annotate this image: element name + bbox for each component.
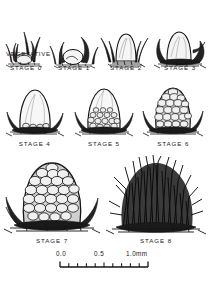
stage-5-label: STAGE 5 <box>88 140 120 148</box>
stage-row-2: STAGE 4 <box>0 74 208 148</box>
stage-1-label: STAGE 1 <box>58 64 90 72</box>
scale-label-0: 0.0 <box>56 250 66 257</box>
stage-cell-2: STAGE 2 <box>100 2 152 72</box>
scale-label-5: 0.5 <box>94 250 104 257</box>
stage-cell-6: STAGE 6 <box>139 74 208 148</box>
stage-cell-5: STAGE 5 <box>69 74 138 148</box>
plant-development-figure: STAGE 0 <box>0 0 208 281</box>
stage-8-label: STAGE 8 <box>140 237 172 245</box>
stage-cell-0: STAGE 0 <box>0 2 48 72</box>
stage-6-illustration <box>140 80 206 140</box>
scale-bar: 0.0 0.5 1.0mm <box>0 250 208 271</box>
stage-5-illustration <box>71 80 137 140</box>
vegetative-label: VEGETATIVE <box>6 50 51 57</box>
stage-cell-1: STAGE 1 <box>48 2 100 72</box>
stage-4-illustration <box>2 80 68 140</box>
scale-label-10: 1.0mm <box>126 250 148 257</box>
stage-3-label: STAGE 3 <box>164 64 196 72</box>
stage-cell-4: STAGE 4 <box>0 74 69 148</box>
stage-8-illustration <box>106 155 206 237</box>
ruler-graphic <box>56 260 152 271</box>
stage-cell-7: STAGE 7 <box>0 150 104 245</box>
stage-2-label: STAGE 2 <box>110 64 142 72</box>
stage-row-3: STAGE 7 <box>0 150 208 245</box>
stage-0-label: STAGE 0 <box>10 64 42 72</box>
stage-row-1: STAGE 0 <box>0 2 208 72</box>
stage-cell-3: STAGE 3 <box>152 2 208 72</box>
stage-6-label: STAGE 6 <box>157 140 189 148</box>
stage-7-label: STAGE 7 <box>36 237 68 245</box>
scale-tick-labels: 0.0 0.5 1.0mm <box>54 250 154 260</box>
stage-4-label: STAGE 4 <box>19 140 51 148</box>
stage-7-illustration <box>2 155 102 237</box>
stage-cell-8: STAGE 8 <box>104 150 208 245</box>
